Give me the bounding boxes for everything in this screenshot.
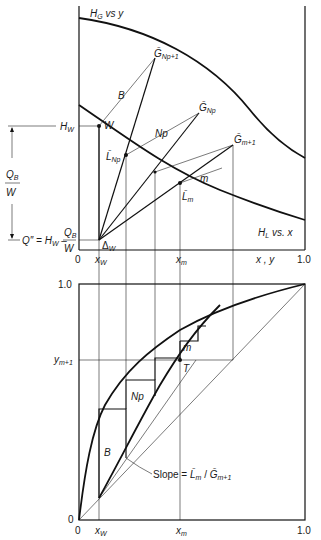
top-tick-0: 0 xyxy=(75,254,81,265)
tie-line-B xyxy=(99,58,155,126)
label-L-Np: L̄Np xyxy=(106,150,121,164)
label-stage-B: B xyxy=(104,447,111,458)
label-G-m1: Ḡm+1 xyxy=(234,133,256,146)
ponchon-savarit-diagram: HG vs y HL vs. x ḠNp+1 ḠNp Ḡm+1 L̄Np … xyxy=(0,0,321,540)
label-delta-w: ΔW xyxy=(102,240,117,252)
label-stage-Np: Np xyxy=(131,391,144,402)
bottom-tick-ym1: ym+1 xyxy=(53,354,73,366)
label-point-T: T xyxy=(183,363,190,374)
label-QB-num: QB xyxy=(6,169,19,181)
point-mid xyxy=(153,170,156,173)
top-tick-xw: xW xyxy=(94,254,108,266)
label-Q-den: W xyxy=(64,243,75,254)
point-T xyxy=(178,358,182,362)
diagonal-line xyxy=(79,284,305,520)
bottom-panel: B Np m T Slope = L̄m / Ḡm+1 1.0 ym+1 0 … xyxy=(53,279,311,537)
label-line-Np: Np xyxy=(155,128,168,139)
hl-curve-label: HL vs. x xyxy=(258,227,293,239)
arrowhead-down-icon xyxy=(10,234,14,239)
bottom-tick-y1: 1.0 xyxy=(58,279,72,290)
point-LNp xyxy=(124,153,128,157)
label-Q-double-prime: Q″ = HW – xyxy=(22,235,67,247)
bottom-tick-x1: 1.0 xyxy=(297,525,311,536)
bottom-tick-x0: 0 xyxy=(75,525,81,536)
line-delta-gnp1 xyxy=(99,58,155,240)
bottom-tick-xw: xW xyxy=(94,525,108,537)
point-Lm xyxy=(178,181,182,185)
top-tick-1: 1.0 xyxy=(297,254,311,265)
label-L-m: L̄m xyxy=(182,190,194,203)
top-panel: HG vs y HL vs. x ḠNp+1 ḠNp Ḡm+1 L̄Np … xyxy=(5,6,311,266)
bottom-tick-xm: xm xyxy=(175,525,187,537)
top-x-axis-label: x , y xyxy=(255,254,275,265)
label-stage-m: m xyxy=(183,342,191,353)
label-line-B: B xyxy=(118,90,125,101)
label-W: W xyxy=(104,120,115,131)
slope-label: Slope = L̄m / Ḡm+1 xyxy=(153,468,231,481)
hg-curve-label: HG vs y xyxy=(90,8,124,20)
top-tick-xm: xm xyxy=(175,254,187,266)
hg-curve xyxy=(79,18,305,158)
label-QB-den: W xyxy=(6,187,17,198)
slope-leader xyxy=(126,458,152,474)
label-Hw: HW xyxy=(60,121,75,133)
stage-mid xyxy=(155,358,180,380)
arrowhead-up-icon xyxy=(10,127,14,132)
line-delta-gnp xyxy=(99,113,199,240)
bottom-tick-y0: 0 xyxy=(68,514,74,525)
label-G-Np: ḠNp xyxy=(199,101,216,115)
label-Q-num: QB xyxy=(64,227,77,239)
label-line-m: m xyxy=(200,173,208,184)
